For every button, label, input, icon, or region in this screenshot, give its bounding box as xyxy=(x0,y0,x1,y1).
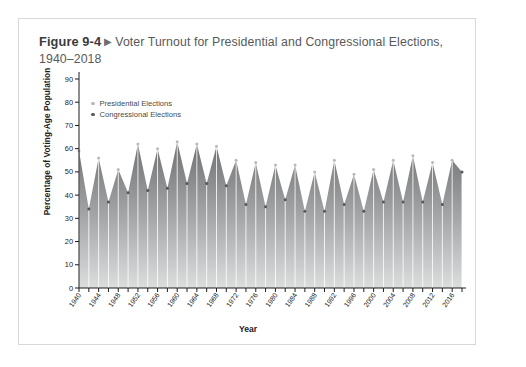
svg-text:1948: 1948 xyxy=(107,291,122,308)
svg-text:2000: 2000 xyxy=(362,291,377,308)
svg-text:2012: 2012 xyxy=(421,291,436,308)
svg-text:50: 50 xyxy=(65,167,73,176)
svg-text:20: 20 xyxy=(65,237,73,246)
svg-text:80: 80 xyxy=(65,98,73,107)
svg-text:2016: 2016 xyxy=(441,291,456,308)
svg-text:90: 90 xyxy=(65,75,73,84)
svg-text:1940: 1940 xyxy=(68,291,83,308)
figure-card: Figure 9-4▶Voter Turnout for Presidentia… xyxy=(18,18,476,345)
svg-text:0: 0 xyxy=(69,284,73,293)
svg-text:1956: 1956 xyxy=(146,291,161,308)
chart-plot-area: Percentage of Voting-Age Population Year… xyxy=(19,19,477,346)
svg-text:1984: 1984 xyxy=(284,291,299,308)
svg-text:1968: 1968 xyxy=(205,291,220,308)
svg-text:70: 70 xyxy=(65,121,73,130)
svg-text:40: 40 xyxy=(65,191,73,200)
svg-text:1976: 1976 xyxy=(244,291,259,308)
svg-text:30: 30 xyxy=(65,214,73,223)
svg-text:60: 60 xyxy=(65,144,73,153)
y-axis-ticks: 0102030405060708090 xyxy=(65,75,79,293)
svg-text:1988: 1988 xyxy=(303,291,318,308)
svg-text:1960: 1960 xyxy=(166,291,181,308)
svg-text:10: 10 xyxy=(65,260,73,269)
svg-text:1980: 1980 xyxy=(264,291,279,308)
x-axis-ticks: 1940194419481952195619601964196819721976… xyxy=(68,288,462,308)
chart-svg: 0102030405060708090 19401944194819521956… xyxy=(19,19,477,346)
svg-text:1996: 1996 xyxy=(343,291,358,308)
svg-text:1964: 1964 xyxy=(185,291,200,308)
svg-text:1992: 1992 xyxy=(323,291,338,308)
svg-text:2004: 2004 xyxy=(382,291,397,308)
svg-text:1972: 1972 xyxy=(225,291,240,308)
svg-text:2008: 2008 xyxy=(402,291,417,308)
svg-text:1952: 1952 xyxy=(127,291,142,308)
chart-area-fill xyxy=(79,142,462,288)
svg-text:1944: 1944 xyxy=(87,291,102,308)
